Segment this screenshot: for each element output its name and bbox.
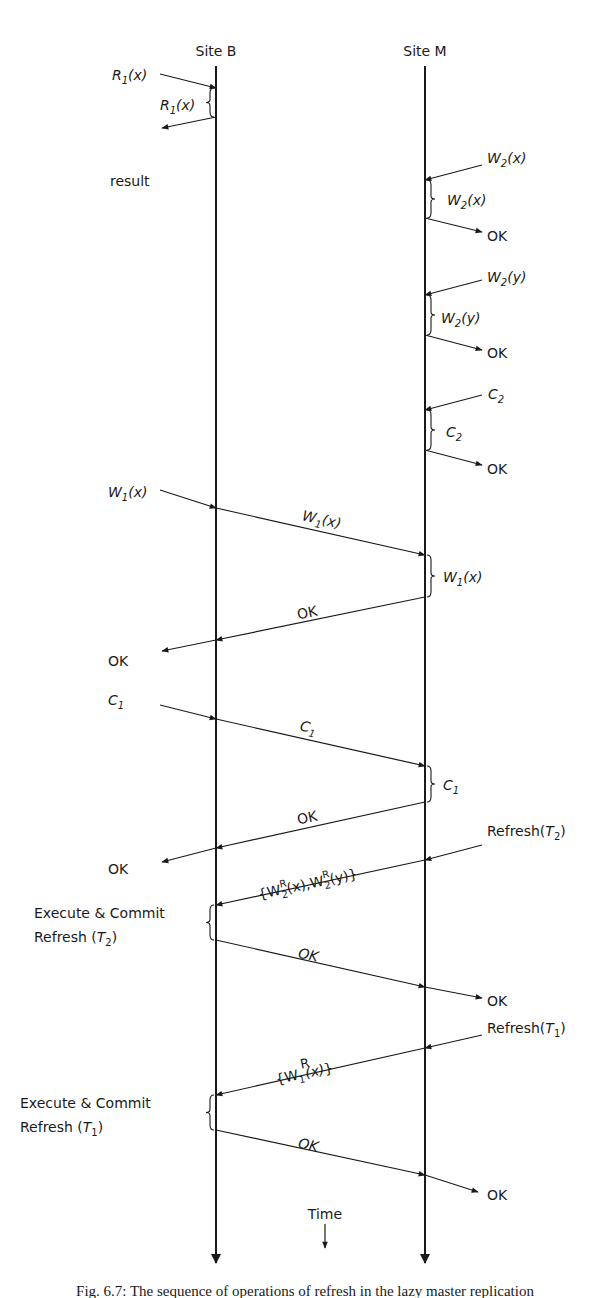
message-arrow-r1-in — [160, 74, 216, 88]
exec-commit-t2-line1: Execute & Commit — [34, 905, 165, 921]
message-arrow-t2-ok-back — [216, 940, 425, 987]
w2x-ok-label: OK — [487, 228, 508, 244]
refresh-t1-request-label: Refresh(T1) — [487, 1020, 566, 1039]
message-arrow-c1-ok-out — [162, 848, 216, 862]
c2-ok-label: OK — [487, 461, 508, 477]
w1x-exec-label: W1(x) — [443, 569, 482, 588]
brace-refresh-t2-exec — [206, 905, 214, 940]
t2-ok-back-label: OK — [297, 945, 322, 965]
message-arrow-refresh-t2-in — [425, 845, 482, 860]
exec-commit-t1-line1: Execute & Commit — [20, 1095, 151, 1111]
brace-w2y-exec — [427, 295, 435, 335]
w2y-request-label: W2(y) — [487, 269, 526, 288]
message-arrow-c1-fwd — [216, 719, 425, 766]
message-arrow-w1x-fwd — [216, 508, 425, 555]
r1-request-label: R1(x) — [112, 67, 147, 86]
result-label: result — [110, 173, 150, 189]
refresh-t1-writeset-label: {W1R(x)} — [272, 1051, 335, 1091]
message-arrow-t1-ok-back — [216, 1130, 425, 1175]
r1-exec-label: R1(x) — [160, 97, 195, 116]
exec-commit-t2-line2: Refresh (T2) — [34, 929, 117, 948]
c2-exec-label: C2 — [446, 424, 462, 443]
message-arrow-w2x-in — [425, 165, 482, 180]
message-arrow-t2-ok-out — [425, 987, 482, 998]
t2-ok-out-label: OK — [487, 993, 508, 1009]
lifelines — [216, 66, 425, 1263]
w2y-ok-label: OK — [487, 345, 508, 361]
w1x-ok-out-label: OK — [108, 653, 129, 669]
message-arrow-r1-result — [162, 117, 216, 128]
time-axis-label: Time — [307, 1206, 342, 1222]
message-arrow-w2x-ok — [425, 218, 482, 232]
refresh-t2-request-label: Refresh(T2) — [487, 823, 566, 842]
message-arrows — [160, 74, 482, 1192]
c1-request-label: C1 — [108, 692, 124, 711]
c1-ok-out-label: OK — [108, 861, 129, 877]
w1x-request-label: W1(x) — [108, 484, 147, 503]
message-arrow-c1-in — [160, 705, 216, 719]
w2x-request-label: W2(x) — [487, 150, 526, 169]
exec-commit-t1-line2: Refresh (T1) — [20, 1119, 103, 1138]
message-arrow-c1-ok-back — [216, 802, 425, 848]
brace-c2-exec — [427, 410, 435, 450]
message-arrow-w1x-ok-back — [216, 597, 425, 640]
site-b-label: Site B — [196, 43, 237, 59]
c1-exec-label: C1 — [443, 777, 459, 796]
message-arrow-c2-ok — [425, 450, 482, 465]
w2y-exec-label: W2(y) — [441, 310, 480, 329]
w1x-forward-label: W1(x) — [300, 507, 343, 534]
message-arrow-t1-ok-out — [425, 1175, 478, 1192]
execution-braces — [206, 88, 435, 1130]
c1-ok-back-label: OK — [296, 808, 320, 828]
brace-refresh-t1-exec — [206, 1095, 214, 1130]
message-arrow-refresh-t1-in — [425, 1035, 482, 1048]
sequence-diagram: Site B Site M R1(x) R1(x) result W2(x) W… — [0, 0, 611, 1298]
brace-c1-exec — [427, 766, 435, 802]
brace-w1x-exec — [427, 555, 435, 597]
c1-forward-label: C1 — [298, 718, 318, 740]
message-arrow-w2y-in — [425, 280, 482, 295]
brace-w2x-exec — [427, 180, 435, 218]
c2-request-label: C2 — [488, 386, 504, 405]
w2x-exec-label: W2(x) — [447, 192, 486, 211]
message-arrow-w2y-ok — [425, 335, 482, 350]
refresh-t2-writeset-label: {WR2(x),WR2(y)} — [256, 863, 359, 906]
message-arrow-w1x-ok-out — [162, 640, 216, 651]
site-m-label: Site M — [403, 43, 446, 59]
message-arrow-c2-in — [425, 395, 482, 410]
figure-caption: Fig. 6.7: The sequence of operations of … — [76, 1283, 534, 1298]
message-arrow-w1x-in — [160, 490, 216, 508]
t1-ok-out-label: OK — [487, 1187, 508, 1203]
brace-r1-exec — [206, 88, 214, 117]
